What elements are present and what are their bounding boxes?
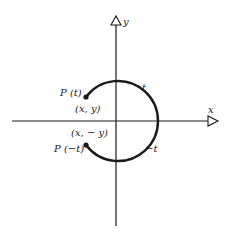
point-p-t	[83, 94, 88, 99]
point-label-p-minus-t: P (−t)	[53, 143, 84, 154]
coord-label-x-minus-y: (x, − y)	[71, 127, 108, 138]
y-axis-arrow-icon	[111, 16, 121, 25]
coord-label-x-y: (x, y)	[75, 103, 101, 114]
arc-label-minus-t: −t	[145, 143, 158, 154]
point-label-p-t: P (t)	[59, 87, 82, 98]
x-axis-arrow-icon	[208, 116, 218, 126]
unit-circle-diagram: y x t −t P (t) (x, y) (x, − y) P (−t)	[0, 0, 227, 234]
point-p-minus-t	[83, 142, 88, 147]
x-axis-label: x	[208, 104, 214, 115]
y-axis-label: y	[122, 16, 129, 27]
